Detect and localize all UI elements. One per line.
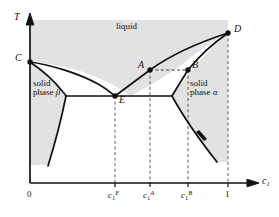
x-tick-label-c1B: c1B <box>181 190 192 201</box>
point-label-A: A <box>138 60 144 71</box>
y-axis-label: T <box>14 12 20 23</box>
region-label-liquid: liquid <box>116 22 137 31</box>
point-marker-D <box>225 30 230 35</box>
x-axis-arrowhead <box>247 179 259 187</box>
x-tick-label-c1A-sup: A <box>150 189 154 196</box>
point-marker-E <box>112 93 117 98</box>
region-label-solid-alpha-line2: phase <box>190 87 211 97</box>
x-axis-label: c1 <box>262 176 270 187</box>
x-tick-label-c1A: c1A <box>143 190 154 201</box>
x-tick-label-zero: 0 <box>27 190 32 199</box>
point-label-B: B <box>192 60 198 71</box>
point-label-C: C <box>15 53 22 64</box>
point-label-D: D <box>234 24 241 35</box>
point-marker-B <box>185 67 190 72</box>
region-label-solid-alpha: solidphase α <box>190 79 217 98</box>
x-tick-label-one: 1 <box>225 190 230 199</box>
region-label-solid-alpha-symbol: α <box>213 87 218 97</box>
region-label-solid-beta: solidphase β <box>33 79 60 98</box>
x-tick-label-c1E-sup: E <box>115 189 119 196</box>
point-label-E: E <box>119 95 125 106</box>
region-label-solid-beta-line2: phase <box>33 87 54 97</box>
phase-diagram-figure: T c1 liquid solidphase β solidphase α C … <box>0 0 279 217</box>
x-tick-label-c1B-sup: B <box>188 189 192 196</box>
y-axis-arrowhead <box>26 13 34 25</box>
region-label-solid-beta-symbol: β <box>56 87 60 97</box>
x-tick-label-c1E: c1E <box>108 190 119 201</box>
point-marker-C <box>27 59 32 64</box>
x-axis-label-sub: 1 <box>266 180 269 187</box>
point-marker-A <box>147 67 152 72</box>
